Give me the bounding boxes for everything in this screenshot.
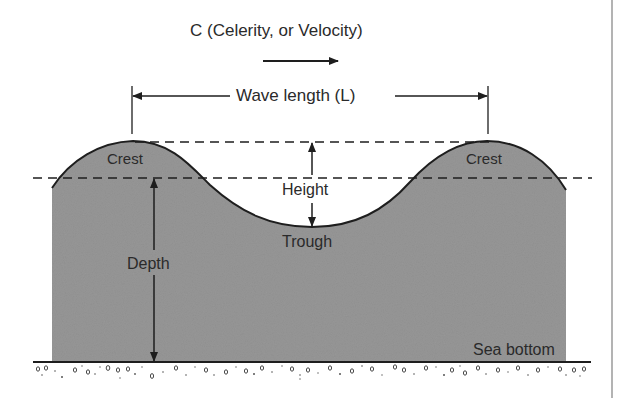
water-body — [52, 141, 566, 362]
wave-length-label: Wave length (L) — [234, 87, 357, 104]
crest-label-left: Crest — [107, 151, 143, 166]
wave-diagram-canvas — [0, 0, 620, 398]
sediment-pattern — [36, 365, 585, 379]
celerity-title: C (Celerity, or Velocity) — [190, 22, 363, 39]
trough-label: Trough — [282, 234, 332, 250]
crest-label-right: Crest — [466, 151, 502, 166]
sea-bottom-label: Sea bottom — [473, 342, 555, 358]
wave-diagram: C (Celerity, or Velocity) Wave length (L… — [0, 0, 620, 398]
depth-label: Depth — [127, 256, 170, 272]
sediment-dots — [41, 365, 581, 379]
height-label: Height — [282, 182, 328, 198]
